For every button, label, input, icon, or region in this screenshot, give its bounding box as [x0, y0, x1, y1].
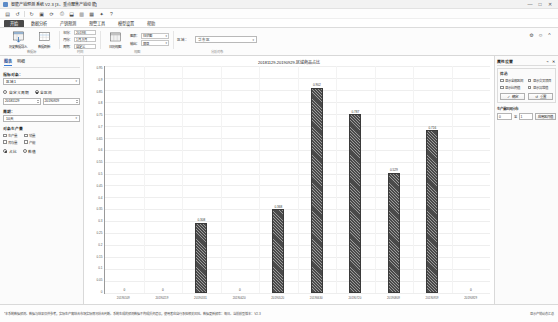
threshold-min-input[interactable]: 0 — [497, 113, 512, 120]
reset-button[interactable]: ↺ 重置 — [528, 93, 553, 100]
bar-value-label: 0.308 — [197, 218, 205, 222]
display-option-capacity[interactable]: 产能 — [24, 140, 35, 145]
year-input[interactable]: 2019年 — [74, 30, 96, 36]
analysis-object-select[interactable]: 区域1 ▾ — [3, 78, 80, 85]
checkbox-sales — [24, 134, 28, 138]
filter-show-ratio[interactable]: 显示比例值 — [500, 85, 526, 90]
month-label: 月份： — [63, 37, 72, 42]
bar-item[interactable]: 0 — [452, 66, 491, 293]
print-icon[interactable]: ⎙ — [58, 10, 65, 17]
checkbox-capacity — [24, 140, 28, 144]
close-panel-icon[interactable]: ✕ — [552, 59, 556, 63]
bar[interactable] — [426, 130, 438, 293]
period-mode-all[interactable]: 全区间 — [35, 90, 53, 95]
date-from-picker[interactable]: 20181129 — [3, 98, 41, 105]
pin-icon[interactable]: ⌁ — [547, 59, 551, 63]
status-right-label[interactable]: 显示产销动态汇总 — [530, 311, 554, 316]
save-icon[interactable]: ▤ — [4, 10, 11, 17]
chart-type-combo[interactable]: 柱状图 ▾ — [141, 33, 169, 39]
filter-show-cross-items[interactable]: 显示交叉项目 — [528, 78, 554, 83]
bar-item[interactable]: 0.787 — [336, 66, 375, 293]
export-icon[interactable]: ⬓ — [68, 10, 75, 17]
tab-warning-tools[interactable]: 预警工具 — [83, 20, 111, 28]
left-tab-chart[interactable]: 图表 — [4, 58, 12, 66]
display-option-sales-label: 销量 — [29, 133, 35, 138]
tab-model-settings[interactable]: 模型设置 — [112, 20, 140, 28]
month-input[interactable]: 1月-9月 — [74, 37, 96, 43]
bar-item[interactable]: 0 — [144, 66, 183, 293]
y-tick-label: 0.5 — [98, 172, 102, 176]
bar[interactable] — [272, 209, 284, 293]
checkbox-show-all-range — [500, 79, 504, 83]
right-panel-actions: ⌁ ✕ — [547, 59, 557, 63]
undo-icon[interactable]: ↺ — [14, 10, 21, 17]
bar-value-label: 0.787 — [351, 110, 359, 114]
help-icon[interactable]: ? — [108, 10, 115, 17]
bar-item[interactable]: 0.368 — [259, 66, 298, 293]
value-mode-number[interactable]: 数值 — [23, 149, 37, 154]
cycle-input[interactable]: 自定义 — [74, 44, 96, 50]
period-mode-custom[interactable]: 自定义周期 — [3, 90, 29, 95]
import-data-button[interactable]: 历史数据导入 — [7, 31, 29, 49]
bar-item[interactable]: 0.902 — [298, 66, 337, 293]
bar[interactable] — [195, 223, 207, 293]
redo-icon[interactable]: ↻ — [28, 10, 35, 17]
apply-threshold-button[interactable]: 应用区间值 — [535, 113, 556, 120]
bar-item[interactable]: 0.529 — [375, 66, 414, 293]
date-from-spinner[interactable] — [37, 100, 39, 103]
tab-start[interactable]: 开始 — [4, 20, 24, 28]
calendar-icon — [109, 31, 122, 43]
region-combo[interactable]: 华东区 ▾ — [195, 36, 257, 43]
display-content-field: 对象生产量 生产量 销量 — [3, 126, 80, 154]
refresh-data-button[interactable]: 数据刷新 — [33, 31, 55, 49]
value-mode-ratio[interactable]: 占比 — [3, 149, 17, 154]
display-option-production[interactable]: 生产量 — [3, 133, 17, 138]
checkbox-show-ratio — [500, 86, 504, 90]
star-icon[interactable]: ✦ — [98, 10, 105, 17]
table-icon[interactable]: ▦ — [88, 10, 95, 17]
y-tick-label: 0.95 — [96, 66, 102, 70]
grouping-value: 10天 — [6, 116, 14, 121]
user-icon[interactable]: ☺ — [537, 31, 544, 38]
threshold-to-label: 至 — [514, 114, 517, 119]
tab-data-analysis[interactable]: 数据分析 — [25, 20, 53, 28]
left-tab-detail[interactable]: 明细 — [17, 58, 25, 66]
grouping-select[interactable]: 10天 ▾ — [3, 115, 80, 122]
bar-item[interactable]: 0 — [105, 66, 144, 293]
tab-help[interactable]: 帮助 — [141, 20, 161, 28]
bar-value-label: 0 — [239, 288, 241, 292]
date-to-value: 20190929 — [45, 99, 60, 103]
output-combo[interactable]: 屏显 ▾ — [141, 40, 169, 46]
open-icon[interactable]: ▣ — [38, 10, 45, 17]
radio-ratio-dot — [3, 149, 7, 153]
calendar-view-button[interactable]: 日历视图 — [104, 31, 126, 49]
settings-icon[interactable]: ⚙ — [528, 31, 535, 38]
bar[interactable] — [311, 88, 323, 293]
refresh-icon[interactable]: ⟳ — [48, 10, 55, 17]
date-to-picker[interactable]: 20190929 — [43, 98, 81, 105]
bar[interactable] — [388, 173, 400, 293]
date-from-value: 20181129 — [5, 99, 19, 103]
chart-icon[interactable]: ▥ — [78, 10, 85, 17]
confirm-button[interactable]: ✓ 确定 — [500, 93, 525, 100]
threshold-max-input[interactable]: 1 — [519, 113, 534, 120]
bar-item[interactable]: 0 — [221, 66, 260, 293]
display-option-inventory[interactable]: 库存量 — [3, 140, 17, 145]
bar[interactable] — [349, 114, 361, 293]
display-option-sales[interactable]: 销量 — [24, 133, 35, 138]
collapse-ribbon-icon[interactable]: ^ — [546, 31, 553, 38]
ribbon-right-icons: ⚙ ☺ ^ — [528, 29, 555, 55]
filter-show-all-range[interactable]: 显示全部区间 — [500, 78, 526, 83]
output-row: 输出： 屏显 ▾ — [130, 40, 169, 46]
minimize-button[interactable]: — — [525, 0, 535, 9]
x-tick-label: 20190809 — [374, 294, 413, 302]
filter-show-outliers[interactable]: 显示异常值 — [528, 85, 554, 90]
close-button[interactable]: ✕ — [545, 0, 555, 9]
bar-item[interactable]: 0.716 — [413, 66, 452, 293]
bar-item[interactable]: 0.308 — [182, 66, 221, 293]
maximize-button[interactable]: □ — [535, 0, 545, 9]
left-panel-tabs: 图表 明细 — [3, 58, 80, 68]
tab-forecast[interactable]: 产销预测 — [54, 20, 82, 28]
date-range-row: 20181129 20190929 — [3, 98, 80, 105]
date-to-spinner[interactable] — [76, 100, 78, 103]
